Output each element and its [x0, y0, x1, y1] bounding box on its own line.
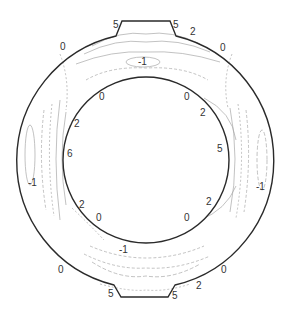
label-top-right-2: 2 — [190, 26, 196, 37]
label-inner-left-6: 6 — [67, 148, 73, 159]
label-inner-top-left-0: 0 — [99, 91, 105, 102]
label-bottom-notch-left: 5 — [108, 288, 114, 299]
label-inner-bottom-left-0: 0 — [96, 212, 102, 223]
label-outer-left-neg1: -1 — [28, 177, 37, 188]
label-bottom-center-neg1: -1 — [119, 244, 128, 255]
label-inner-left-2: 2 — [74, 118, 80, 129]
label-top-right-0: 0 — [220, 42, 226, 53]
label-inner-bottom-right-0: 0 — [184, 212, 190, 223]
label-inner-right-5: 5 — [217, 143, 223, 154]
label-inner-bottom-right-2: 2 — [206, 196, 212, 207]
label-inner-top-right-0: 0 — [184, 91, 190, 102]
label-outer-right-neg1: -1 — [256, 181, 265, 192]
label-top-notch-right: 5 — [173, 19, 179, 30]
label-top-left-0: 0 — [60, 41, 66, 52]
contour-diagram: 5 5 2 0 0 -1 0 0 2 2 6 5 -1 -1 2 2 0 0 -… — [0, 0, 288, 314]
label-bottom-notch-right: 5 — [172, 290, 178, 301]
label-inner-bottom-left-2: 2 — [79, 199, 85, 210]
label-inner-right-2: 2 — [200, 107, 206, 118]
label-top-notch-left: 5 — [113, 19, 119, 30]
label-top-center-neg1: -1 — [138, 56, 147, 67]
inner-boundary — [63, 77, 229, 243]
label-bottom-right-2: 2 — [196, 280, 202, 291]
label-bottom-left-0: 0 — [58, 264, 64, 275]
label-bottom-right-0: 0 — [221, 264, 227, 275]
